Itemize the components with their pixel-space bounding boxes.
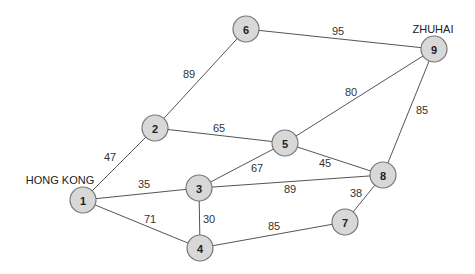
- graph-diagram: 4735718965306789854580953885 123456789 H…: [0, 0, 475, 274]
- edge-1-4: [83, 200, 200, 248]
- node-6: 6: [233, 16, 259, 42]
- node-label: 7: [342, 217, 348, 229]
- edge-weight-3-4: 30: [203, 213, 215, 225]
- node-2: 2: [142, 115, 168, 141]
- edge-weight-6-9: 95: [332, 25, 344, 37]
- edge-weight-2-5: 65: [213, 122, 225, 134]
- edge-5-8: [285, 143, 383, 175]
- edge-2-6: [155, 29, 246, 128]
- node-8: 8: [370, 162, 396, 188]
- node-7: 7: [332, 209, 358, 235]
- node-4: 4: [187, 235, 213, 261]
- edge-weight-3-8: 89: [284, 183, 296, 195]
- edge-3-5: [199, 143, 285, 188]
- edge-weight-4-7: 85: [268, 220, 280, 232]
- edge-weight-5-9: 80: [345, 86, 357, 98]
- edge-weight-7-8: 38: [350, 187, 362, 199]
- edge-weight-1-4: 71: [144, 213, 156, 225]
- city-labels: HONG KONGZHUHAI: [26, 23, 454, 186]
- node-1: 1: [70, 187, 96, 213]
- node-label: 3: [196, 183, 202, 195]
- node-label: 1: [80, 195, 86, 207]
- edge-weight-8-9: 85: [416, 104, 428, 116]
- nodes-layer: 123456789: [70, 16, 447, 261]
- edge-weight-3-5: 67: [251, 162, 263, 174]
- node-5: 5: [272, 130, 298, 156]
- node-9: 9: [421, 36, 447, 62]
- edge-weight-5-8: 45: [319, 157, 331, 169]
- node-label: 9: [431, 44, 437, 56]
- node-label: 5: [282, 138, 288, 150]
- edge-weight-2-6: 89: [183, 68, 195, 80]
- node-3: 3: [186, 175, 212, 201]
- edges-layer: [83, 29, 434, 248]
- edge-5-9: [285, 49, 434, 143]
- city-label-9: ZHUHAI: [413, 23, 454, 35]
- edge-weight-1-3: 35: [138, 178, 150, 190]
- node-label: 6: [243, 24, 249, 36]
- edge-weight-1-2: 47: [104, 151, 116, 163]
- node-label: 8: [380, 170, 386, 182]
- node-label: 2: [152, 123, 158, 135]
- city-label-1: HONG KONG: [26, 174, 94, 186]
- node-label: 4: [197, 243, 204, 255]
